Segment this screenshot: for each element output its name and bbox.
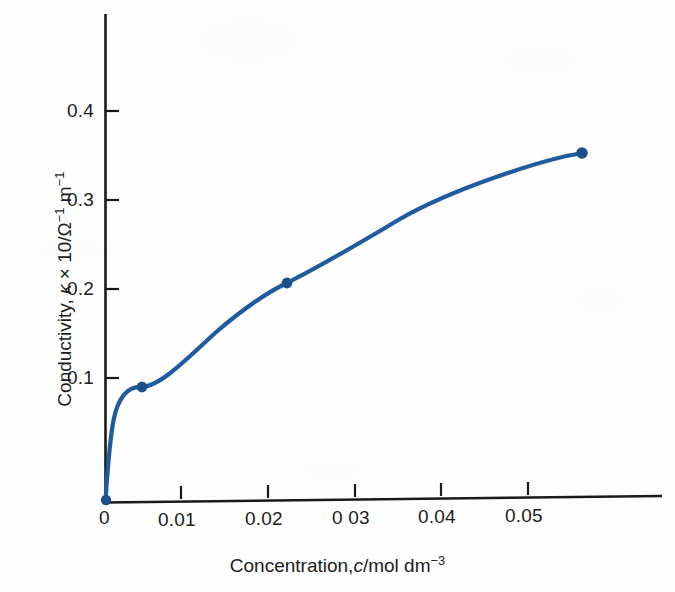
y-axis-title-mid: × 10/Ω <box>54 222 75 284</box>
x-tick-label-0.02: 0.02 <box>245 508 283 530</box>
x-axis-ticks <box>181 482 528 499</box>
data-point-1 <box>137 382 148 393</box>
y-axis-title: Conductivity, κ × 10/Ω−1 m−1 <box>52 99 76 479</box>
x-axis-title: Concentration,c/mol dm−3 <box>0 553 675 577</box>
data-point-2 <box>282 278 293 289</box>
x-tick-label-0.04: 0.04 <box>418 506 456 528</box>
plot-canvas <box>0 0 675 592</box>
x-tick-label-0.03: 0 03 <box>332 507 370 529</box>
y-axis-title-prefix: Conductivity, <box>54 294 75 407</box>
x-axis-title-exponent: −3 <box>430 553 445 568</box>
y-axis-title-symbol: κ <box>54 285 75 295</box>
data-point-markers <box>101 147 588 505</box>
conductivity-curve <box>106 153 583 501</box>
y-axis-title-exponent-2: −1 <box>52 172 67 187</box>
x-tick-label-0.01: 0.01 <box>158 509 196 531</box>
x-tick-label-0: 0 <box>99 507 110 529</box>
x-axis-title-suffix: /mol dm <box>363 555 431 576</box>
y-axis-title-exponent-1: −1 <box>52 208 67 223</box>
x-tick-label-0.05: 0.05 <box>505 505 543 527</box>
y-axis-title-mid-2: m <box>54 186 75 207</box>
x-axis-title-prefix: Concentration, <box>230 555 354 576</box>
x-axis-title-symbol: c <box>353 555 363 576</box>
y-axis-ticks <box>105 111 119 378</box>
conductivity-chart-figure: 0.4 0.3 0.2 0.1 0 0.01 0.02 0 03 0.04 0.… <box>0 0 675 592</box>
data-point-3 <box>576 147 588 159</box>
data-point-0 <box>101 495 111 505</box>
x-axis-line <box>105 496 662 503</box>
